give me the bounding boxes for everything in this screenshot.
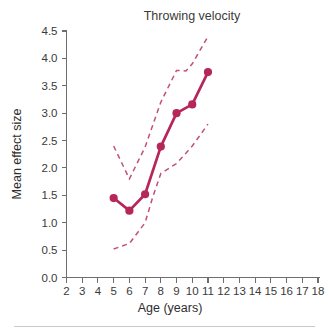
chart-figure: Throwing velocity Mean effect size Age (… — [0, 0, 329, 334]
x-tick-label: 14 — [249, 285, 262, 297]
x-tick-label: 16 — [280, 285, 293, 297]
x-tick-label: 4 — [95, 285, 102, 297]
x-tick-label: 3 — [79, 285, 85, 297]
x-tick-group: 23456789101112131415161718 — [63, 278, 324, 297]
x-tick-label: 7 — [142, 285, 148, 297]
y-tick-label: 3.0 — [42, 107, 58, 119]
y-tick-label: 4.5 — [42, 25, 58, 37]
x-tick-label: 8 — [158, 285, 164, 297]
chart-title: Throwing velocity — [144, 9, 241, 23]
y-axis: 0.00.51.01.52.02.53.03.54.04.5 — [42, 25, 67, 284]
x-tick-label: 5 — [110, 285, 116, 297]
data-point-marker — [157, 142, 165, 150]
data-point-marker — [110, 194, 118, 202]
y-tick-label: 0.0 — [42, 272, 58, 284]
mean-effect-size-line — [114, 72, 208, 211]
y-tick-label: 1.0 — [42, 217, 58, 229]
x-tick-label: 2 — [63, 285, 69, 297]
x-tick-label: 10 — [186, 285, 199, 297]
x-tick-label: 6 — [126, 285, 132, 297]
throwing-velocity-line-chart: Throwing velocity Mean effect size Age (… — [0, 0, 329, 334]
data-point-marker — [172, 109, 180, 117]
x-tick-label: 11 — [202, 285, 214, 297]
y-tick-label: 2.0 — [42, 162, 58, 174]
y-tick-label: 3.5 — [42, 80, 58, 92]
x-tick-label: 15 — [264, 285, 277, 297]
y-tick-label: 4.0 — [42, 52, 58, 64]
data-point-marker — [141, 190, 149, 198]
data-point-marker — [204, 68, 212, 76]
data-point-marker — [125, 207, 133, 215]
x-tick-label: 12 — [217, 285, 230, 297]
y-axis-title: Mean effect size — [10, 109, 24, 200]
x-tick-label: 9 — [173, 285, 179, 297]
x-axis-title: Age (years) — [138, 301, 203, 315]
y-tick-label: 1.5 — [42, 189, 58, 201]
data-point-markers — [110, 68, 213, 215]
x-tick-label: 18 — [312, 285, 325, 297]
y-tick-group: 0.00.51.01.52.02.53.03.54.04.5 — [42, 25, 67, 284]
x-tick-label: 13 — [233, 285, 246, 297]
x-tick-label: 17 — [296, 285, 309, 297]
plot-area — [110, 36, 213, 249]
y-tick-label: 0.5 — [42, 244, 58, 256]
y-tick-label: 2.5 — [42, 135, 58, 147]
x-axis: 23456789101112131415161718 — [63, 278, 324, 297]
data-point-marker — [188, 100, 196, 108]
